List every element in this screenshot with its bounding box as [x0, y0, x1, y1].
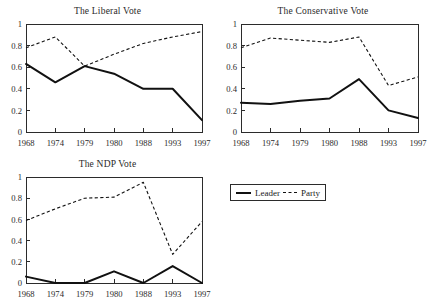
y-tick-label: 0 [18, 127, 22, 137]
legend-line-dashed-icon [283, 192, 297, 193]
y-tick-label: 0 [18, 278, 22, 288]
x-tick-label: 1968 [232, 138, 249, 148]
series-line-leader [26, 64, 202, 120]
y-tick-label: 0.8 [11, 41, 22, 51]
legend-line-solid-icon [236, 192, 251, 194]
panel-conservative-vote: The Conservative Vote 00.20.40.60.811968… [215, 6, 431, 156]
y-tick-label: 1 [18, 20, 22, 29]
legend-entry-party: Party [283, 188, 320, 198]
y-tick-label: 0.2 [11, 106, 22, 116]
chart-title-liberal: The Liberal Vote [0, 6, 215, 16]
x-tick-label: 1968 [17, 138, 34, 148]
x-tick-label: 1968 [17, 289, 34, 299]
plot-area-ndp: 00.20.40.60.8119681974197919801988199319… [0, 173, 215, 307]
x-tick-label: 1988 [135, 289, 152, 299]
series-line-party [26, 182, 202, 254]
x-tick-label: 1993 [164, 138, 181, 148]
x-tick-label: 1997 [193, 138, 211, 148]
x-tick-label: 1993 [380, 138, 397, 148]
legend-label-party: Party [301, 188, 320, 198]
series-line-party [26, 32, 202, 67]
x-tick-label: 1988 [350, 138, 367, 148]
series-line-party [241, 37, 418, 86]
y-tick-label: 0.6 [226, 62, 237, 72]
y-tick-label: 0 [233, 127, 237, 137]
y-tick-label: 0.6 [11, 62, 22, 72]
chart-title-conservative: The Conservative Vote [215, 6, 431, 16]
y-tick-label: 1 [233, 20, 237, 29]
x-tick-label: 1974 [262, 138, 280, 148]
y-tick-label: 0.8 [226, 41, 237, 51]
y-tick-label: 0.2 [11, 257, 22, 267]
x-tick-label: 1988 [135, 138, 152, 148]
x-tick-label: 1974 [47, 138, 65, 148]
y-tick-label: 0.2 [226, 106, 237, 116]
y-tick-label: 0.8 [11, 193, 22, 203]
x-tick-label: 1997 [193, 289, 211, 299]
y-tick-label: 0.4 [11, 84, 22, 94]
x-tick-label: 1980 [105, 289, 122, 299]
chart-legend: Leader Party [230, 184, 326, 201]
x-tick-label: 1980 [105, 138, 122, 148]
panel-ndp-vote: The NDP Vote 00.20.40.60.811968197419791… [0, 159, 215, 307]
plot-area-conservative: 00.20.40.60.8119681974197919801988199319… [215, 20, 431, 160]
y-tick-label: 0.6 [11, 215, 22, 225]
y-tick-label: 0.4 [226, 84, 237, 94]
legend-label-leader: Leader [255, 188, 280, 198]
x-tick-label: 1993 [164, 289, 181, 299]
x-tick-label: 1974 [47, 289, 65, 299]
panel-liberal-vote: The Liberal Vote 00.20.40.60.81196819741… [0, 6, 215, 156]
y-tick-label: 1 [18, 173, 22, 182]
plot-area-liberal: 00.20.40.60.8119681974197919801988199319… [0, 20, 215, 160]
x-tick-label: 1979 [291, 138, 308, 148]
chart-title-ndp: The NDP Vote [0, 159, 215, 169]
y-tick-label: 0.4 [11, 236, 22, 246]
x-tick-label: 1979 [76, 138, 93, 148]
x-tick-label: 1979 [76, 289, 93, 299]
x-tick-label: 1997 [409, 138, 427, 148]
legend-entry-leader: Leader [236, 188, 280, 198]
x-tick-label: 1980 [321, 138, 338, 148]
